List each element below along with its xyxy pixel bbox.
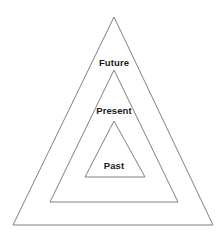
nested-pyramid-shapes [0,0,223,238]
pyramid-label-future: Future [99,57,129,68]
pyramid-label-present: Present [96,105,132,116]
pyramid-label-past: Past [104,160,124,171]
pyramid-diagram: Future Present Past [0,0,223,238]
middle-triangle-present [50,70,178,202]
outer-triangle-future [13,17,213,225]
